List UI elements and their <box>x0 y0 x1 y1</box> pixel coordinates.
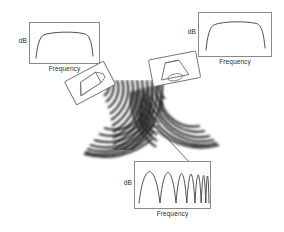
x-axis-label-combined: Frequency <box>134 211 211 218</box>
panel-combined-comb-filter-response: dB Frequency <box>116 159 216 223</box>
x-axis-label-right: Frequency <box>198 59 272 66</box>
figure-canvas: dB Frequency dB Frequency <box>0 0 284 232</box>
y-axis-label-left: dB <box>11 38 27 45</box>
curve-combined-comb-filter-response <box>134 161 211 209</box>
right-speaker <box>146 48 206 94</box>
y-axis-label-right: dB <box>180 29 196 36</box>
curve-right-speaker-response <box>198 12 272 57</box>
left-speaker <box>62 58 118 108</box>
y-axis-label-combined: dB <box>116 180 132 187</box>
